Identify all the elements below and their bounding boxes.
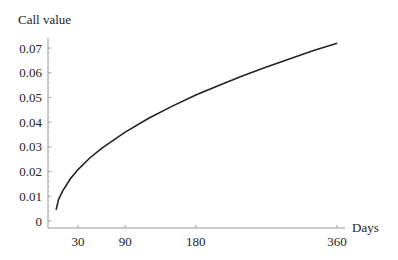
y-tick-label: 0.07 (19, 41, 42, 56)
x-axis: 3090180360 (48, 225, 347, 249)
x-tick-label: 30 (72, 234, 85, 249)
y-tick-label: 0.02 (19, 164, 42, 179)
y-tick-label: 0.01 (19, 189, 42, 204)
y-axis: 00.010.020.030.040.050.060.07 (19, 38, 51, 229)
x-tick-label: 90 (119, 234, 132, 249)
x-tick-label: 180 (186, 234, 206, 249)
y-tick-label: 0.04 (19, 115, 42, 130)
x-axis-label: Days (352, 220, 379, 235)
call-value-chart: Call value 00.010.020.030.040.050.060.07… (0, 0, 398, 260)
x-tick-label: 360 (327, 234, 347, 249)
y-tick-label: 0.03 (19, 139, 42, 154)
y-tick-label: 0.05 (19, 90, 42, 105)
y-tick-label: 0.06 (19, 65, 42, 80)
y-axis-label: Call value (18, 12, 71, 27)
call-value-curve (56, 43, 337, 210)
y-tick-label: 0 (36, 214, 43, 229)
